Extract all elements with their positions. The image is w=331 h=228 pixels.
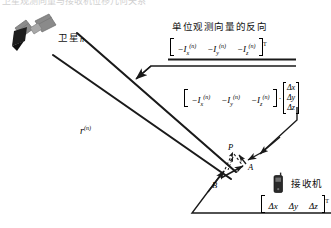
satellite-index: n	[80, 36, 84, 44]
delta-z-cell: Δz	[287, 103, 295, 113]
projection-z: −Iz(n)	[248, 96, 273, 105]
satellite-icon	[12, 14, 56, 51]
unit-vector-bracket: −Ix(n) −Iy(n) −Iz(n)	[170, 39, 263, 55]
displacement-dy: Δy	[285, 202, 301, 211]
range-label: r(n)	[80, 126, 91, 136]
projection-row-vector: −Ix(n) −Iy(n) −Iz(n)	[184, 90, 277, 106]
displacement-transpose: T	[325, 198, 329, 204]
figure-canvas: 卫星观测向量与接收机位移几何关系	[0, 0, 331, 228]
delta-x-cell: Δx	[287, 83, 295, 93]
leader-unit-vector	[137, 66, 296, 78]
unit-vector-y: −Iy(n)	[204, 45, 230, 54]
arrow-into-a	[248, 150, 266, 160]
point-label-p: P	[228, 143, 233, 152]
point-label-b: B	[212, 181, 217, 190]
unit-vector-z: −Iz(n)	[234, 45, 259, 54]
unit-vector-caption: 单位观测向量的反向	[172, 22, 267, 32]
receiver-label: 接收机	[291, 179, 323, 189]
displacement-bracket: Δx Δy Δz	[261, 196, 325, 212]
projection-column-vector: Δx Δy Δz	[283, 82, 299, 114]
unit-vector-matrix: −Ix(n) −Iy(n) −Iz(n) T	[170, 39, 267, 55]
satellite-label: 卫星	[58, 33, 79, 43]
projection-formula: −Ix(n) −Iy(n) −Iz(n) · Δx Δy Δz	[184, 82, 299, 114]
projection-x: −Ix(n)	[188, 96, 214, 105]
delta-y-cell: Δy	[287, 93, 295, 103]
displacement-dz: Δz	[306, 202, 322, 211]
displacement-dx: Δx	[265, 202, 281, 211]
receiver-displacement-vector: Δx Δy Δz T	[261, 196, 329, 212]
point-label-a: A	[248, 163, 253, 172]
receiver-icon	[271, 172, 287, 196]
projection-y: −Iy(n)	[218, 96, 244, 105]
unit-vector-x: −Ix(n)	[174, 45, 200, 54]
unit-vector-transpose: T	[263, 41, 267, 47]
leader-unit-vector-arrow	[136, 66, 151, 79]
segment-p-to-a	[234, 154, 243, 166]
